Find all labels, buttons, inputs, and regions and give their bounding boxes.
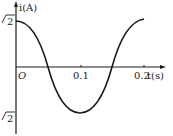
y-min-tick-label: 2 (7, 114, 13, 124)
y-axis-label: i(A) (19, 3, 37, 13)
chart-canvas (0, 0, 173, 136)
current-waveform (16, 19, 144, 113)
origin-label: O (18, 71, 26, 81)
y-max-tick-label: 2 (7, 17, 13, 27)
x-axis-label: t(s) (147, 71, 164, 81)
y-axis-arrow-icon (14, 1, 18, 7)
x-tick-label-0.1: 0.1 (73, 71, 89, 81)
x-axis-arrow-icon (160, 65, 166, 69)
